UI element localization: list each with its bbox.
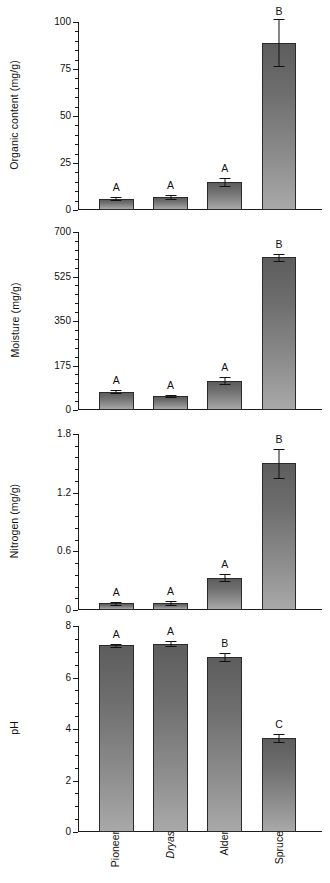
- x-axis-category-labels: PioneerDryasAlderSpruce: [78, 828, 320, 883]
- y-axis-title: Organic content (mg/g): [0, 18, 28, 212]
- y-minor-tick: [75, 652, 78, 653]
- y-tick-label: 525: [54, 272, 71, 282]
- y-minor-tick: [75, 357, 78, 358]
- y-tick-label: 0.6: [57, 546, 71, 556]
- bar-slot: A: [99, 434, 134, 610]
- y-axis-title: pH: [0, 622, 28, 834]
- bar-slot: B: [262, 434, 297, 610]
- y-tick: [73, 610, 78, 611]
- bar-slot: A: [153, 22, 188, 210]
- y-minor-tick: [75, 540, 78, 541]
- error-bar-cap-upper: [165, 395, 176, 396]
- y-minor-tick: [75, 259, 78, 260]
- y-tick: [73, 116, 78, 117]
- y-tick-label: 4: [65, 724, 71, 734]
- y-minor-tick: [75, 392, 78, 393]
- error-bar-cap-upper: [274, 734, 285, 735]
- error-bar-cap-upper: [219, 574, 230, 575]
- y-tick: [73, 493, 78, 494]
- bar-slot: B: [207, 626, 242, 832]
- y-minor-tick: [75, 374, 78, 375]
- y-minor-tick: [75, 78, 78, 79]
- y-minor-tick: [75, 154, 78, 155]
- bar-slot: A: [153, 626, 188, 832]
- y-tick-label: 1.8: [57, 429, 71, 439]
- y-minor-tick: [75, 250, 78, 251]
- error-bar-cap-upper: [219, 377, 230, 378]
- y-minor-tick: [75, 575, 78, 576]
- bar-slot: A: [99, 232, 134, 410]
- y-minor-tick: [75, 755, 78, 756]
- y-tick-label: 25: [60, 158, 71, 168]
- y-tick-label: 700: [54, 227, 71, 237]
- error-bar-cap-upper: [111, 644, 122, 645]
- error-bar-cap-upper: [111, 390, 122, 391]
- y-tick: [73, 277, 78, 278]
- y-tick-label: 2: [65, 776, 71, 786]
- y-axis-title: Nitrogen (mg/g): [0, 430, 28, 612]
- y-minor-tick: [75, 182, 78, 183]
- y-minor-tick: [75, 481, 78, 482]
- y-minor-tick: [75, 793, 78, 794]
- y-axis-title-text: Nitrogen (mg/g): [8, 484, 20, 558]
- y-tick: [73, 434, 78, 435]
- y-minor-tick: [75, 446, 78, 447]
- y-minor-tick: [75, 401, 78, 402]
- y-tick-label: 0: [65, 205, 71, 215]
- error-bar-cap-lower: [165, 646, 176, 647]
- y-tick-label: 75: [60, 64, 71, 74]
- y-minor-tick: [75, 107, 78, 108]
- plot-area: 02468AABC: [78, 626, 320, 832]
- y-tick: [73, 551, 78, 552]
- plot-area: 0255075100AAAB: [78, 22, 320, 210]
- x-tick-label-dryas: Dryas: [164, 831, 176, 858]
- error-bar: [279, 19, 280, 66]
- error-bar-cap-lower: [219, 186, 230, 187]
- panel-3: Nitrogen (mg/g)00.61.21.8AAAB: [0, 430, 330, 612]
- error-bar-cap-lower: [219, 661, 230, 662]
- y-tick-label: 0: [65, 405, 71, 415]
- bar-slot: A: [207, 434, 242, 610]
- bar: [153, 396, 188, 410]
- y-tick: [73, 163, 78, 164]
- significance-label: B: [276, 434, 283, 445]
- error-bar-cap-upper: [219, 178, 230, 179]
- y-minor-tick: [75, 268, 78, 269]
- error-bar-cap-lower: [111, 605, 122, 606]
- y-minor-tick: [75, 135, 78, 136]
- y-minor-tick: [75, 339, 78, 340]
- error-bar-cap-upper: [111, 197, 122, 198]
- y-tick: [73, 410, 78, 411]
- bar: [99, 645, 134, 832]
- y-minor-tick: [75, 330, 78, 331]
- y-minor-tick: [75, 285, 78, 286]
- significance-label: B: [276, 6, 283, 17]
- y-minor-tick: [75, 587, 78, 588]
- error-bar-cap-upper: [165, 195, 176, 196]
- y-minor-tick: [75, 469, 78, 470]
- significance-label: A: [221, 163, 228, 174]
- error-bar: [224, 574, 225, 581]
- y-minor-tick: [75, 144, 78, 145]
- y-minor-tick: [75, 690, 78, 691]
- y-axis-title-text: pH: [8, 721, 20, 735]
- error-bar-cap-lower: [165, 199, 176, 200]
- panel-4: pH02468AABC: [0, 622, 330, 834]
- significance-label: A: [167, 180, 174, 191]
- bar-group: AAAB: [79, 434, 320, 610]
- panel-2: Moisture (mg/g)0175350525700AAAB: [0, 228, 330, 412]
- y-minor-tick: [75, 665, 78, 666]
- significance-label: A: [221, 362, 228, 373]
- significance-label: C: [275, 719, 283, 730]
- y-minor-tick: [75, 60, 78, 61]
- bar: [207, 381, 242, 410]
- y-tick-label: 175: [54, 361, 71, 371]
- y-minor-tick: [75, 31, 78, 32]
- y-minor-tick: [75, 303, 78, 304]
- significance-label: A: [167, 380, 174, 391]
- bar: [262, 738, 297, 832]
- y-tick: [73, 232, 78, 233]
- error-bar-cap-lower: [274, 742, 285, 743]
- bar-slot: A: [99, 626, 134, 832]
- x-tick-label-spruce: Spruce: [273, 831, 285, 864]
